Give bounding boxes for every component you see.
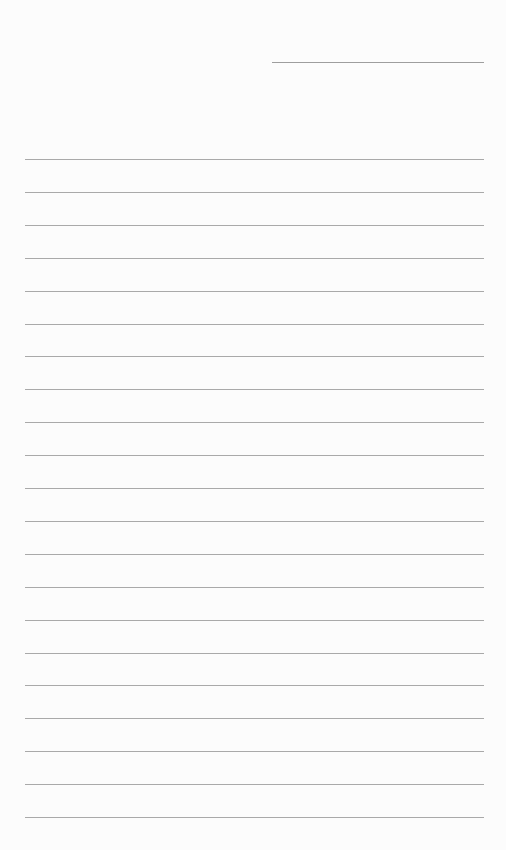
header-line xyxy=(272,62,484,63)
ruled-line xyxy=(25,225,484,226)
lined-paper-page xyxy=(0,0,506,850)
ruled-line xyxy=(25,422,484,423)
ruled-line xyxy=(25,653,484,654)
ruled-line xyxy=(25,620,484,621)
ruled-line xyxy=(25,159,484,160)
ruled-line xyxy=(25,718,484,719)
ruled-line xyxy=(25,258,484,259)
ruled-line xyxy=(25,554,484,555)
ruled-line xyxy=(25,356,484,357)
ruled-line xyxy=(25,488,484,489)
ruled-line xyxy=(25,521,484,522)
ruled-line xyxy=(25,324,484,325)
ruled-line xyxy=(25,389,484,390)
ruled-line xyxy=(25,784,484,785)
ruled-line xyxy=(25,685,484,686)
ruled-line xyxy=(25,587,484,588)
ruled-line xyxy=(25,291,484,292)
ruled-line xyxy=(25,192,484,193)
ruled-line xyxy=(25,751,484,752)
ruled-line xyxy=(25,455,484,456)
ruled-line xyxy=(25,817,484,818)
